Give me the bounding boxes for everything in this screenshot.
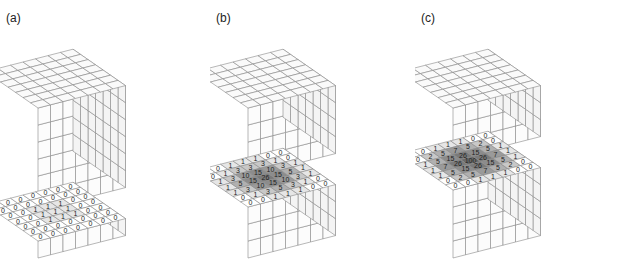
cell-value: 1 <box>299 186 303 193</box>
cell-value: 0 <box>76 188 80 195</box>
block-front-cell <box>248 238 261 258</box>
cube-diagram-b: 0011100013331013101510311515261551131015… <box>210 0 420 277</box>
cell-value: 1 <box>46 203 50 210</box>
cell-value: 3 <box>231 175 235 182</box>
cell-value: 1 <box>424 161 428 168</box>
cell-value: 3 <box>281 162 285 169</box>
cell-value: 2 <box>509 161 513 168</box>
cell-value: 5 <box>441 150 445 157</box>
cell-value: 0 <box>76 224 80 231</box>
block-front-cell <box>466 201 479 221</box>
cell-value: 0 <box>94 212 98 219</box>
block-front-cell <box>466 235 479 255</box>
block-front-cell <box>38 156 51 176</box>
cell-value: 0 <box>316 175 320 182</box>
cell-value: 0 <box>471 135 475 142</box>
cell-value: 5 <box>501 156 505 163</box>
cell-value: 1 <box>286 190 290 197</box>
cell-value: 15 <box>269 179 277 186</box>
cell-value: 0 <box>249 199 253 206</box>
cell-value: 0 <box>39 198 43 205</box>
cell-value: 3 <box>266 188 270 195</box>
cell-value: 1 <box>41 211 45 218</box>
cell-value: 1 <box>499 142 503 149</box>
cell-value: 1 <box>459 138 463 145</box>
cell-value: 1 <box>59 200 63 207</box>
cell-value: 1 <box>491 173 495 180</box>
cell-value: 1 <box>224 170 228 177</box>
cell-value: 0 <box>44 189 48 196</box>
cell-value: 1 <box>229 162 233 169</box>
block-front-cell <box>286 228 299 248</box>
cell-value: 1 <box>506 147 510 154</box>
cell-value: 0 <box>44 225 48 232</box>
cell-value: 7 <box>444 163 448 170</box>
block-front-cell <box>478 214 491 234</box>
cell-value: 0 <box>484 132 488 139</box>
cell-value: 5 <box>486 145 490 152</box>
block-front-cell <box>51 102 64 122</box>
block-front-cell <box>491 228 504 248</box>
cell-value: 3 <box>261 160 265 167</box>
cell-value: 1 <box>514 153 518 160</box>
cell-value: 0 <box>69 218 73 225</box>
cell-value: 0 <box>91 198 95 205</box>
panel-label-a: (a) <box>6 11 21 25</box>
cell-value: 0 <box>99 204 103 211</box>
cell-value: 0 <box>466 179 470 186</box>
cell-value: 0 <box>71 196 75 203</box>
cube-diagram-a: 0000000000000000111000011100001110000000… <box>0 0 210 277</box>
cell-value: 0 <box>279 149 283 156</box>
block-front-cell <box>298 225 311 245</box>
cell-value: 0 <box>324 180 328 187</box>
panel-c: 0011100025752015152615511726100267115152… <box>415 0 617 277</box>
cell-value: 0 <box>86 207 90 214</box>
block-front-cell <box>248 122 261 142</box>
block-front-cell <box>38 139 51 159</box>
cell-value: 5 <box>436 158 440 165</box>
block-front-cell <box>76 228 89 248</box>
cell-value: 0 <box>26 201 30 208</box>
cell-value: 0 <box>64 227 68 234</box>
cell-value: 0 <box>14 204 18 211</box>
cell-value: 0 <box>19 196 23 203</box>
block-front-cell <box>261 102 274 122</box>
block-front-cell <box>248 204 261 224</box>
cell-value: 5 <box>471 171 475 178</box>
block-front-cell <box>478 98 491 118</box>
block-front-cell <box>273 231 286 251</box>
cell-value: 0 <box>521 158 525 165</box>
cell-value: 1 <box>304 178 308 185</box>
cell-value: 1 <box>274 193 278 200</box>
block-front-cell <box>51 235 64 255</box>
cell-value: 0 <box>286 154 290 161</box>
block-front-cell <box>286 129 299 149</box>
block-front-cell <box>491 112 504 132</box>
cell-value: 1 <box>446 141 450 148</box>
cell-value: 0 <box>261 196 265 203</box>
cell-value: 26 <box>474 162 482 169</box>
block-front-cell <box>466 184 479 204</box>
cell-value: 0 <box>79 202 83 209</box>
block-front-cell <box>286 211 299 231</box>
cell-value: 0 <box>31 228 35 235</box>
block-front-cell <box>261 235 274 255</box>
cell-value: 0 <box>29 214 33 221</box>
cell-value: 0 <box>56 186 60 193</box>
cell-value: 0 <box>6 199 10 206</box>
cell-value: 2 <box>459 174 463 181</box>
block-front-cell <box>38 238 51 258</box>
cell-value: 1 <box>309 170 313 177</box>
block-front-cell <box>478 231 491 251</box>
cell-value: 1 <box>226 184 230 191</box>
cell-value: 15 <box>462 165 470 172</box>
cell-value: 0 <box>491 137 495 144</box>
cell-value: 0 <box>266 152 270 159</box>
block-front-cell <box>453 187 466 207</box>
cell-value: 5 <box>466 143 470 150</box>
cell-value: 10 <box>282 176 290 183</box>
cell-value: 0 <box>106 209 110 216</box>
block-front-cell <box>248 221 261 241</box>
block-front-cell <box>63 149 76 169</box>
cell-value: 7 <box>494 151 498 158</box>
